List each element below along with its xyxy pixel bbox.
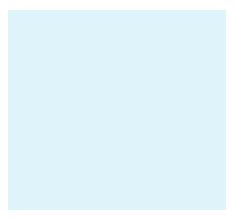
board-background — [8, 10, 226, 210]
go-board — [0, 0, 234, 218]
